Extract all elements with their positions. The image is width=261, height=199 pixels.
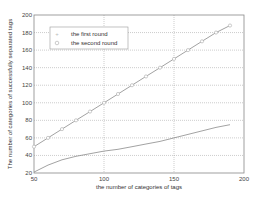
y-tick-label: 120 bbox=[22, 82, 33, 88]
legend-label-first-round: the first round bbox=[71, 31, 108, 37]
legend: + the first round the second round bbox=[50, 27, 128, 49]
data-point-marker bbox=[214, 31, 217, 34]
y-tick-label: 40 bbox=[25, 152, 32, 158]
y-tick-label: 180 bbox=[22, 30, 33, 36]
x-axis-ticks: 50100150200 bbox=[31, 176, 250, 182]
y-tick-label: 200 bbox=[22, 12, 33, 18]
y-tick-label: 160 bbox=[22, 47, 33, 53]
data-point-marker bbox=[74, 119, 77, 122]
data-point-marker bbox=[116, 92, 119, 95]
data-point-marker bbox=[200, 40, 203, 43]
legend-marker-plus-icon: + bbox=[55, 31, 59, 37]
data-point-marker bbox=[60, 128, 63, 131]
data-point-marker bbox=[102, 101, 105, 104]
legend-label-second-round: the second round bbox=[71, 40, 117, 46]
data-point-marker bbox=[32, 145, 35, 148]
data-point-marker bbox=[172, 57, 175, 60]
y-tick-label: 60 bbox=[25, 135, 32, 141]
data-point-marker bbox=[228, 24, 231, 27]
y-axis-ticks: 20406080100120140160180200 bbox=[22, 12, 33, 176]
y-tick-label: 100 bbox=[22, 100, 33, 106]
x-tick-label: 50 bbox=[31, 176, 38, 182]
line-chart: 20406080100120140160180200 50100150200 +… bbox=[0, 0, 261, 199]
data-point-marker bbox=[186, 49, 189, 52]
data-point-marker bbox=[158, 66, 161, 69]
x-axis-label: the number of categories of tags bbox=[96, 184, 182, 190]
data-point-marker bbox=[88, 110, 91, 113]
series-line-2 bbox=[34, 125, 230, 172]
y-tick-label: 80 bbox=[25, 117, 32, 123]
y-tick-label: 140 bbox=[22, 65, 33, 71]
data-point-marker bbox=[130, 84, 133, 87]
data-point-marker bbox=[46, 136, 49, 139]
x-tick-label: 200 bbox=[239, 176, 250, 182]
y-axis-label: The number of categories of successfully… bbox=[7, 19, 13, 169]
data-point-marker bbox=[144, 75, 147, 78]
x-tick-label: 150 bbox=[169, 176, 180, 182]
x-tick-label: 100 bbox=[99, 176, 110, 182]
